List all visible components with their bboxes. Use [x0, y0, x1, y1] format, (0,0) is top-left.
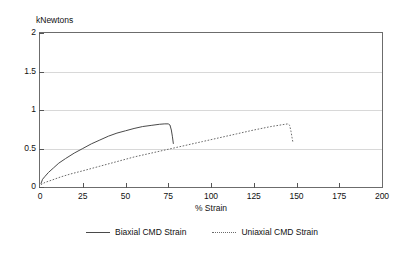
y-axis-tick-mark [39, 110, 44, 111]
x-axis-tick-mark [254, 183, 255, 188]
y-axis-tick-mark [39, 72, 44, 73]
series-line [41, 124, 293, 185]
x-axis-tick-label: 0 [38, 191, 43, 201]
x-axis-tick-mark [297, 183, 298, 188]
y-axis-tick-label: 0 [31, 181, 36, 191]
x-axis-tick-label: 175 [332, 191, 346, 201]
x-axis-tick-label: 150 [289, 191, 303, 201]
x-axis-tick-label: 125 [247, 191, 261, 201]
y-axis-unit-label: kNewtons [36, 15, 73, 25]
legend-label: Biaxial CMD Strain [115, 227, 186, 237]
x-axis-tick-mark [211, 183, 212, 188]
series-layer [40, 33, 382, 187]
x-axis-tick-label: 75 [164, 191, 173, 201]
y-axis-tick-label: 1.5 [24, 66, 36, 76]
x-axis-tick-label: 25 [78, 191, 87, 201]
x-axis-tick-mark [126, 183, 127, 188]
legend-line-icon [212, 232, 236, 233]
legend-item[interactable]: Uniaxial CMD Strain [212, 227, 318, 237]
x-axis-tick-mark [83, 183, 84, 188]
y-axis-tick-label: 0.5 [24, 143, 36, 153]
y-axis-tick-labels: 00.511.52 [10, 32, 36, 188]
y-axis-tick-mark [39, 149, 44, 150]
legend-line-icon [86, 232, 110, 233]
chart-container: kNewtons 00.511.52 025507510012515017520… [0, 0, 404, 258]
chart-legend: Biaxial CMD StrainUniaxial CMD Strain [0, 227, 404, 237]
x-axis-tick-label: 100 [204, 191, 218, 201]
x-axis-tick-labels: 0255075100125150175200 [39, 191, 383, 203]
y-axis-tick-label: 1 [31, 104, 36, 114]
x-axis-tick-label: 200 [375, 191, 389, 201]
x-axis-tick-mark [168, 183, 169, 188]
plot-area [39, 32, 383, 188]
legend-label: Uniaxial CMD Strain [241, 227, 318, 237]
x-axis-tick-mark [339, 183, 340, 188]
y-axis-tick-label: 2 [31, 27, 36, 37]
x-axis-tick-label: 50 [121, 191, 130, 201]
y-axis-tick-mark [39, 187, 44, 188]
plot-inner [40, 33, 382, 187]
legend-item[interactable]: Biaxial CMD Strain [86, 227, 186, 237]
y-axis-tick-mark [39, 33, 44, 34]
chart-title [0, 0, 404, 3]
series-line [41, 124, 174, 184]
x-axis-title: % Strain [39, 203, 383, 213]
